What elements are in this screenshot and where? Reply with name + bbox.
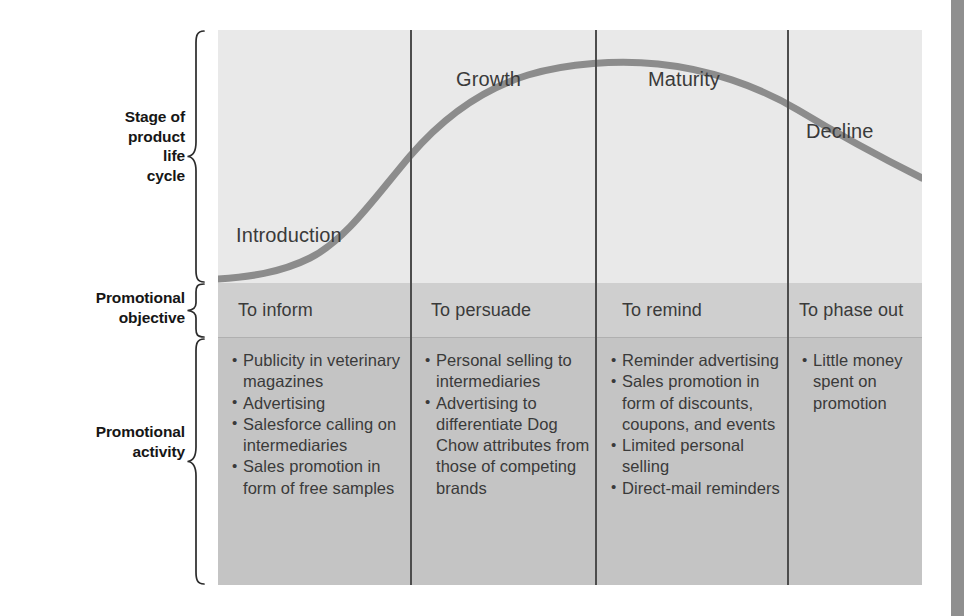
activity-cell-decline: Little money spent on promotion [789, 338, 922, 585]
objective-cell-maturity: To remind [597, 283, 787, 338]
brace-stage-of-product-life-cycle [186, 30, 208, 283]
activity-list-item: Personal selling to intermediaries [425, 350, 591, 393]
activity-cell-growth: Personal selling to intermediariesAdvert… [412, 338, 595, 585]
activity-list-item: Limited personal selling [611, 435, 784, 478]
activity-list-item: Reminder advertising [611, 350, 784, 371]
page-edge-artifact [951, 0, 964, 616]
row-label-promotional-activity: Promotional activity [0, 422, 185, 461]
brace-promotional-activity [186, 338, 208, 585]
activity-list-growth: Personal selling to intermediariesAdvert… [425, 350, 591, 499]
activity-list-item: Sales promotion in form of discounts, co… [611, 371, 784, 435]
brace-icon [186, 30, 208, 283]
activity-cell-maturity: Reminder advertisingSales promotion in f… [597, 338, 787, 585]
stage-label-decline: Decline [806, 120, 873, 143]
activity-list-item: Little money spent on promotion [802, 350, 918, 414]
activity-list-item: Advertising [232, 393, 406, 414]
activity-list-item: Direct-mail reminders [611, 478, 784, 499]
brace-promotional-objective [186, 283, 208, 338]
activity-list-item: Advertising to differentiate Dog Chow at… [425, 393, 591, 499]
stage-label-maturity: Maturity [648, 68, 720, 91]
brace-icon [186, 283, 208, 338]
activity-list-item: Salesforce calling on intermediaries [232, 414, 406, 457]
activity-list-maturity: Reminder advertisingSales promotion in f… [611, 350, 784, 499]
objective-cell-growth: To persuade [412, 283, 595, 338]
product-life-cycle-diagram: Introduction Growth Maturity Decline To … [218, 30, 922, 585]
stage-label-growth: Growth [456, 68, 521, 91]
activity-list-item: Publicity in veterinary magazines [232, 350, 406, 393]
stage-label-introduction: Introduction [236, 224, 342, 247]
activity-cell-introduction: Publicity in veterinary magazinesAdverti… [218, 338, 410, 585]
row-label-stage-of-product-life-cycle: Stage of product life cycle [0, 107, 185, 186]
objective-cell-decline: To phase out [789, 283, 922, 338]
row-label-promotional-objective: Promotional objective [0, 288, 185, 327]
brace-icon [186, 338, 208, 585]
activity-list-item: Sales promotion in form of free samples [232, 456, 406, 499]
activity-list-decline: Little money spent on promotion [802, 350, 918, 414]
objective-cell-introduction: To inform [218, 283, 410, 338]
activity-list-introduction: Publicity in veterinary magazinesAdverti… [232, 350, 406, 499]
